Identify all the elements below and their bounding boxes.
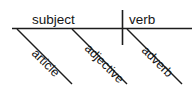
adverb-label: adverb: [139, 43, 176, 80]
article-label: article: [29, 46, 63, 80]
subject-label: subject: [32, 12, 75, 27]
adjective-label: adjective: [82, 41, 127, 86]
diagram-canvas: subject verb article adjective adverb: [0, 0, 192, 87]
verb-label: verb: [129, 12, 155, 27]
sentence-diagram: subject verb article adjective adverb: [0, 0, 192, 87]
